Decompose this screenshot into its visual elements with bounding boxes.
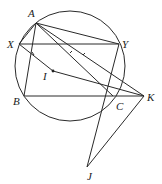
tick-mark (83, 53, 85, 55)
label-B: B (13, 95, 20, 107)
segment-AY (36, 23, 119, 44)
label-J: J (87, 170, 93, 182)
segment-YJ (87, 44, 119, 167)
label-C: C (116, 100, 124, 112)
label-X: X (6, 38, 15, 50)
segment-XI (19, 44, 53, 71)
segment-AC (36, 23, 113, 96)
label-K: K (146, 91, 155, 103)
tick-mark (70, 51, 72, 53)
geometry-diagram: A X Y I B C K J (0, 0, 162, 184)
point-I-dot (52, 70, 55, 73)
label-Y: Y (122, 38, 130, 50)
label-A: A (27, 7, 35, 19)
segment-IK (53, 71, 144, 96)
circumcircle (15, 11, 125, 121)
segment-AK (36, 23, 144, 96)
label-I: I (42, 70, 48, 82)
